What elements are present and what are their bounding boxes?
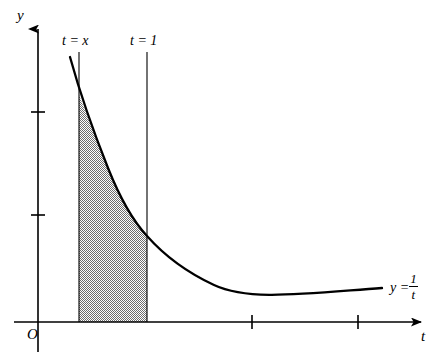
- fraction-numerator: 1: [409, 272, 418, 287]
- annotation-t-equals-x: t = x: [62, 34, 89, 48]
- shaded-area-region: [79, 95, 147, 322]
- fraction-denominator: t: [409, 287, 418, 301]
- figure-container: y t O t = x t = 1 y =1t: [0, 0, 440, 361]
- origin-label: O: [27, 327, 38, 342]
- t-axis-label: t: [421, 329, 425, 344]
- annotation-t-equals-1: t = 1: [130, 34, 157, 48]
- y-axis-label: y: [17, 8, 24, 23]
- curve-equation-lead: y =: [390, 281, 409, 295]
- graph-canvas: [0, 0, 440, 361]
- annotation-curve-equation: y =1t: [390, 273, 418, 302]
- curve-equation-fraction: 1t: [409, 272, 418, 301]
